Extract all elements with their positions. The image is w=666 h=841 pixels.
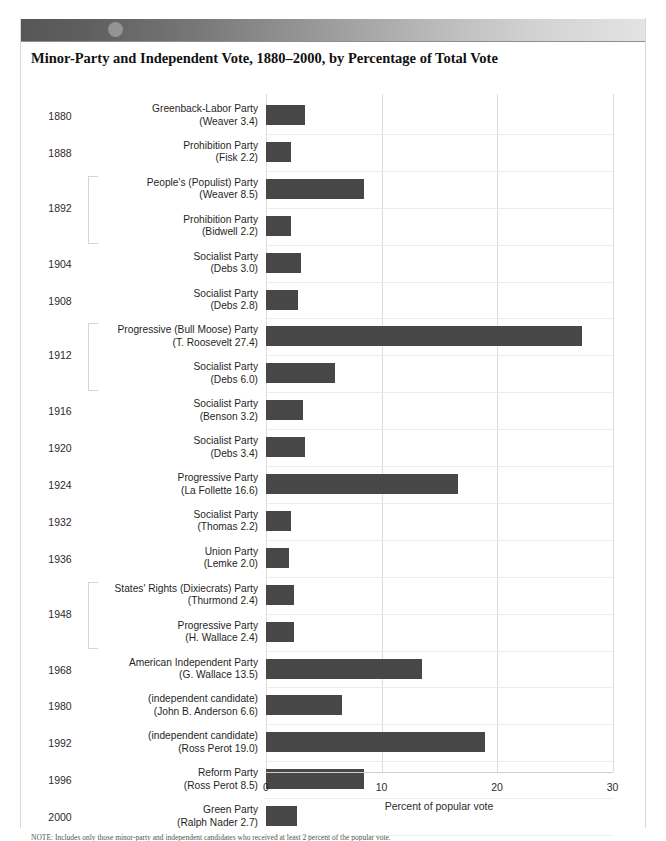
party-name: Socialist Party (96, 509, 258, 522)
candidate-and-value: (Ross Perot 19.0) (96, 743, 258, 756)
candidate-and-value: (Fisk 2.2) (96, 152, 258, 165)
bar (266, 659, 422, 679)
chart-row: People's (Populist) Party(Weaver 8.5) (0, 172, 666, 209)
party-name: Prohibition Party (96, 214, 258, 227)
party-name: (independent candidate) (96, 730, 258, 743)
candidate-and-value: (Debs 2.8) (96, 300, 258, 313)
bar (266, 105, 305, 125)
chart-row: 1968American Independent Party(G. Wallac… (0, 652, 666, 689)
year-group-bracket (88, 323, 98, 391)
candidate-and-value: (John B. Anderson 6.6) (96, 706, 258, 719)
chart-row: 1936Union Party(Lemke 2.0) (0, 541, 666, 578)
row-party-label: Prohibition Party(Fisk 2.2) (96, 140, 258, 165)
chart-row: 1924Progressive Party(La Follette 16.6) (0, 467, 666, 504)
candidate-and-value: (Benson 3.2) (96, 411, 258, 424)
row-year-label: 1932 (34, 504, 86, 541)
party-name: Union Party (96, 546, 258, 559)
row-party-label: Socialist Party(Benson 3.2) (96, 398, 258, 423)
row-year-label-group: 1912 (34, 349, 86, 361)
bar (266, 695, 342, 715)
figure-note: NOTE: Includes only those minor-party an… (31, 833, 631, 841)
candidate-and-value: (H. Wallace 2.4) (96, 632, 258, 645)
bar (266, 363, 335, 383)
party-name: Greenback-Labor Party (96, 103, 258, 116)
chart-row: Progressive Party(H. Wallace 2.4) (0, 615, 666, 652)
row-party-label: Socialist Party(Thomas 2.2) (96, 509, 258, 534)
row-party-label: Socialist Party(Debs 2.8) (96, 288, 258, 313)
row-year-label: 1880 (34, 98, 86, 135)
row-party-label: American Independent Party(G. Wallace 13… (96, 657, 258, 682)
row-party-label: (independent candidate)(John B. Anderson… (96, 693, 258, 718)
row-year-label: 1992 (34, 725, 86, 762)
bar (266, 400, 303, 420)
party-name: Progressive Party (96, 620, 258, 633)
row-year-label: 1996 (34, 762, 86, 799)
row-party-label: Progressive (Bull Moose) Party(T. Roosev… (96, 324, 258, 349)
candidate-and-value: (G. Wallace 13.5) (96, 669, 258, 682)
candidate-and-value: (Debs 3.0) (96, 263, 258, 276)
row-party-label: Socialist Party(Debs 3.0) (96, 251, 258, 276)
candidate-and-value: (Debs 6.0) (96, 374, 258, 387)
party-name: Socialist Party (96, 288, 258, 301)
bar (266, 732, 485, 752)
party-name: States' Rights (Dixiecrats) Party (96, 583, 258, 596)
party-name: Socialist Party (96, 398, 258, 411)
row-party-label: Socialist Party(Debs 6.0) (96, 361, 258, 386)
row-party-label: Greenback-Labor Party(Weaver 3.4) (96, 103, 258, 128)
party-name: Green Party (96, 804, 258, 817)
candidate-and-value: (Thurmond 2.4) (96, 595, 258, 608)
row-year-label: 1920 (34, 430, 86, 467)
row-year-label: 1924 (34, 467, 86, 504)
candidate-and-value: (Lemke 2.0) (96, 558, 258, 571)
candidate-and-value: (Ralph Nader 2.7) (96, 817, 258, 830)
x-tick-label-30: 30 (593, 781, 633, 793)
bar (266, 437, 305, 457)
bar (266, 253, 301, 273)
chart-row: Socialist Party(Debs 6.0) (0, 356, 666, 393)
chart-row: Prohibition Party(Bidwell 2.2) (0, 209, 666, 246)
bar (266, 216, 291, 236)
bar (266, 179, 364, 199)
candidate-and-value: (Debs 3.4) (96, 448, 258, 461)
chart-row: 1920Socialist Party(Debs 3.4) (0, 430, 666, 467)
candidate-and-value: (Ross Perot 8.5) (96, 780, 258, 793)
bar (266, 511, 291, 531)
row-party-label: Reform Party(Ross Perot 8.5) (96, 767, 258, 792)
x-axis-title: Percent of popular vote (265, 800, 613, 812)
row-year-label: 1904 (34, 246, 86, 283)
row-party-label: (independent candidate)(Ross Perot 19.0) (96, 730, 258, 755)
figure-page: FIGURE 9-1 Minor-Party and Independent V… (0, 0, 666, 841)
row-party-label: States' Rights (Dixiecrats) Party(Thurmo… (96, 583, 258, 608)
chart-row: 1996Reform Party(Ross Perot 8.5) (0, 762, 666, 799)
party-name: Progressive (Bull Moose) Party (96, 324, 258, 337)
chart-row: States' Rights (Dixiecrats) Party(Thurmo… (0, 578, 666, 615)
row-year-label: 2000 (34, 799, 86, 836)
year-group-bracket (88, 582, 98, 650)
row-party-label: Prohibition Party(Bidwell 2.2) (96, 214, 258, 239)
row-year-label-group: 1892 (34, 202, 86, 214)
bar (266, 548, 289, 568)
party-name: Socialist Party (96, 361, 258, 374)
chart-row: 1932Socialist Party(Thomas 2.2) (0, 504, 666, 541)
bar (266, 142, 291, 162)
chart-row: 1880Greenback-Labor Party(Weaver 3.4) (0, 98, 666, 135)
row-year-label: 1968 (34, 652, 86, 689)
year-group-bracket (88, 176, 98, 244)
chart-row: 1916Socialist Party(Benson 3.2) (0, 393, 666, 430)
candidate-and-value: (La Follette 16.6) (96, 485, 258, 498)
party-name: American Independent Party (96, 657, 258, 670)
row-year-label: 1916 (34, 393, 86, 430)
party-name: (independent candidate) (96, 693, 258, 706)
party-name: Prohibition Party (96, 140, 258, 153)
row-year-label: 1888 (34, 135, 86, 172)
row-party-label: Union Party(Lemke 2.0) (96, 546, 258, 571)
candidate-and-value: (T. Roosevelt 27.4) (96, 337, 258, 350)
row-year-label: 1908 (34, 283, 86, 320)
bar (266, 290, 298, 310)
x-tick-label-20: 20 (477, 781, 517, 793)
row-party-label: Socialist Party(Debs 3.4) (96, 435, 258, 460)
row-year-label: 1980 (34, 688, 86, 725)
party-name: Progressive Party (96, 472, 258, 485)
bar (266, 622, 294, 642)
party-name: Reform Party (96, 767, 258, 780)
